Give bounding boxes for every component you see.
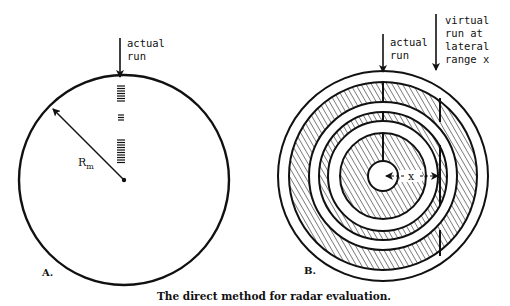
panel-b: actual run virtual run at lateral range …: [278, 14, 489, 281]
panel-b-label: B.: [304, 265, 316, 276]
panel-a: actual run: [19, 37, 229, 285]
radius-label: Rm: [78, 156, 94, 171]
center-dot-a: [122, 178, 126, 182]
virtual-run-label-line3: lateral: [445, 40, 489, 52]
actual-run-label-b-line2: run: [390, 49, 409, 61]
virtual-run-label-line2: run at: [445, 27, 483, 39]
panel-a-label: A.: [41, 267, 53, 278]
actual-run-label-b-line1: actual: [390, 36, 428, 48]
radar-evaluation-figure: actual run: [0, 0, 510, 306]
detection-ticks: [117, 86, 125, 163]
distance-label: x: [408, 170, 415, 183]
virtual-run-label-line4: range x: [445, 53, 489, 65]
actual-run-label-a-line2: run: [127, 50, 146, 62]
virtual-run-label-line1: virtual: [445, 14, 489, 26]
actual-run-label-a-line1: actual: [127, 37, 165, 49]
figure-caption: The direct method for radar evaluation.: [157, 290, 391, 302]
